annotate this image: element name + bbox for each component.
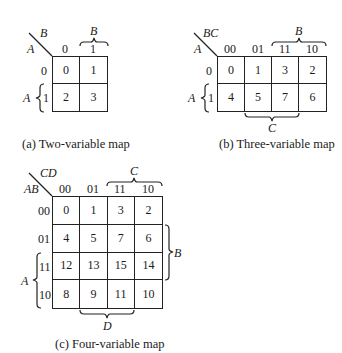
map2-row-header: 1 [43,92,49,104]
map4-cell: 5 [80,225,107,253]
map4-brace-bottom-label: D [103,320,112,332]
map3-brace-top-label: B [295,25,302,37]
map3-cell: 0 [218,57,245,84]
map3-corner-row-var: A [194,43,201,55]
map2-corner-row-var: A [27,43,34,55]
map3-col-header: 01 [252,43,264,55]
map3-brace-left-label: A [188,92,195,104]
map3-cell: 6 [299,84,326,111]
map3-corner-col-var: BC [203,27,218,39]
map2-col-header: 0 [62,43,68,55]
map3-col-header: 10 [306,43,318,55]
map2-col-header: 1 [90,43,96,55]
map4-col-header: 10 [142,183,154,195]
map2-cell: 3 [80,84,107,111]
map2-brace-left-label: A [23,92,30,104]
map4-cell: 13 [80,253,107,281]
map4-grid: 0 1 3 2 4 5 7 6 12 13 15 14 8 9 11 10 [52,196,163,309]
map4-cell: 15 [108,253,135,281]
map3-cell: 7 [272,84,299,111]
map4-cell: 8 [53,280,80,308]
map3-cell: 1 [245,57,272,84]
map4-cell: 2 [135,197,162,225]
map4-brace-right-label: B [174,247,181,259]
map4-row-header: 11 [39,261,51,273]
map3-caption: (b) Three-variable map [219,137,335,152]
map2-corner-col-var: B [40,27,47,39]
map4-cell: 3 [108,197,135,225]
map2-caption: (a) Two-variable map [22,137,130,152]
map4-cell: 6 [135,225,162,253]
map2-brace-top-label: B [90,25,97,37]
map4-cell: 12 [53,253,80,281]
map4-col-header: 01 [87,183,99,195]
map4-brace-top-label: C [130,165,138,177]
map4-row-header: 01 [38,233,50,245]
map2-grid: 0 1 2 3 [52,56,108,112]
map4-cell: 4 [53,225,80,253]
map2-row-header: 0 [41,65,47,77]
map3-col-header: 00 [224,43,236,55]
map4-col-header: 00 [59,183,71,195]
map3-col-header: 11 [279,43,291,55]
map2-cell: 2 [53,84,80,111]
map4-col-header: 11 [114,183,126,195]
map3-grid: 0 1 3 2 4 5 7 6 [217,56,327,112]
map4-caption: (c) Four-variable map [55,337,164,352]
map3-cell: 3 [272,57,299,84]
map4-row-header: 00 [38,205,50,217]
map4-cell: 0 [53,197,80,225]
map4-cell: 10 [135,280,162,308]
map4-cell: 11 [108,280,135,308]
map4-corner-col-var: CD [40,167,57,179]
map2-cell: 1 [80,57,107,84]
map4-cell: 1 [80,197,107,225]
map3-row-header: 0 [206,65,212,77]
map4-cell: 7 [108,225,135,253]
map3-brace-bottom-label: C [268,122,276,134]
map4-bottom-brace [80,310,134,318]
map3-cell: 2 [299,57,326,84]
map4-cell: 14 [135,253,162,281]
map4-corner-row-var: AB [24,183,39,195]
map4-row-header: 10 [39,289,51,301]
map2-cell: 0 [53,57,80,84]
map4-cell: 9 [80,280,107,308]
map3-cell: 4 [218,84,245,111]
map4-brace-left-label: A [21,275,28,287]
map3-cell: 5 [245,84,272,111]
map4-right-brace [165,225,173,280]
map3-row-header: 1 [208,92,214,104]
map3-bottom-brace [245,113,299,121]
